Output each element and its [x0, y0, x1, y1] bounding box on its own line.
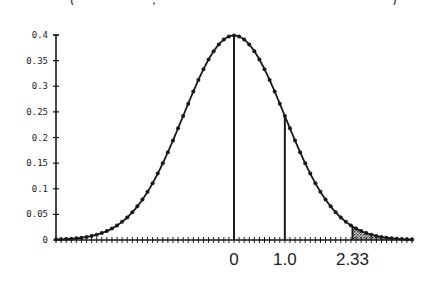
svg-text:0.35: 0.35: [26, 56, 48, 66]
svg-text:0.3: 0.3: [32, 81, 48, 91]
svg-text:0.15: 0.15: [26, 158, 48, 168]
svg-text:0: 0: [229, 250, 238, 269]
x-axis-labels: 01.02.33: [229, 250, 369, 269]
y-axis-ticks: 00.050.10.150.20.250.30.350.4: [26, 30, 59, 245]
svg-text:0.1: 0.1: [32, 184, 48, 194]
svg-text:0.05: 0.05: [26, 209, 48, 219]
svg-text:0: 0: [43, 235, 48, 245]
svg-text:0.25: 0.25: [26, 107, 48, 117]
svg-text:2.33: 2.33: [336, 250, 369, 269]
normal-distribution-chart: 00.050.10.150.20.250.30.350.4 01.02.33: [0, 0, 427, 281]
svg-text:0.4: 0.4: [32, 30, 48, 40]
svg-text:0.2: 0.2: [32, 133, 48, 143]
svg-text:1.0: 1.0: [273, 250, 297, 269]
